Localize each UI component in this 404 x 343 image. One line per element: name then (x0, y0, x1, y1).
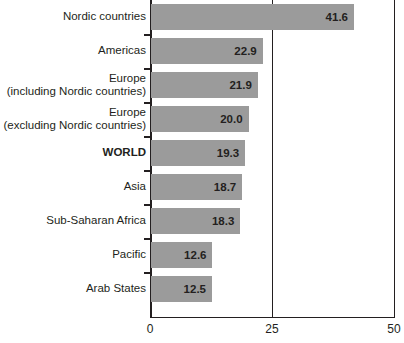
x-axis-tick-label-25: 25 (257, 322, 287, 336)
y-axis-tick (144, 238, 151, 240)
bar: 12.5 (151, 276, 212, 302)
bar: 19.3 (151, 140, 245, 166)
bar-value-label: 18.7 (214, 181, 236, 193)
bar-value-label: 12.5 (184, 283, 206, 295)
category-label-line2: (including Nordic countries) (7, 85, 146, 99)
category-label-line1: Americas (98, 44, 146, 56)
y-axis-tick (144, 272, 151, 274)
bar: 41.6 (151, 4, 354, 30)
bar-value-label: 19.3 (217, 147, 239, 159)
category-label-line1: WORLD (103, 146, 146, 158)
category-label: Pacific (112, 248, 146, 262)
bar-value-label: 41.6 (326, 11, 348, 23)
bar: 21.9 (151, 72, 258, 98)
category-label-line1: Pacific (112, 248, 146, 260)
bar: 20.0 (151, 106, 249, 132)
y-axis-tick (144, 170, 151, 172)
plot-area: 0255041.6Nordic countries22.9Americas21.… (0, 0, 404, 343)
bar: 18.3 (151, 208, 240, 234)
y-axis-tick (144, 68, 151, 70)
gridline-50 (394, 0, 395, 318)
category-label: Europe(excluding Nordic countries) (3, 106, 146, 133)
x-axis-tick-label-0: 0 (135, 322, 165, 336)
category-label: WORLD (103, 146, 146, 160)
bar-value-label: 21.9 (229, 79, 251, 91)
category-label: Arab States (86, 282, 146, 296)
bar-value-label: 22.9 (234, 45, 256, 57)
y-axis-tick (144, 102, 151, 104)
x-axis-tick-label-50: 50 (379, 322, 404, 336)
y-axis-tick (144, 204, 151, 206)
category-label-line1: Sub-Saharan Africa (46, 214, 146, 226)
category-label: Sub-Saharan Africa (46, 214, 146, 228)
bar-value-label: 20.0 (220, 113, 242, 125)
bar: 18.7 (151, 174, 242, 200)
y-axis-tick (144, 34, 151, 36)
x-axis-line (150, 317, 395, 318)
category-label-line2: (excluding Nordic countries) (3, 119, 146, 133)
bar: 12.6 (151, 242, 212, 268)
bar-value-label: 12.6 (184, 249, 206, 261)
category-label: Asia (124, 180, 146, 194)
category-label-line1: Europe (109, 72, 146, 84)
y-axis-tick (144, 136, 151, 138)
bar-chart: 0255041.6Nordic countries22.9Americas21.… (0, 0, 404, 343)
category-label: Americas (98, 44, 146, 58)
category-label: Europe(including Nordic countries) (7, 72, 146, 99)
gridline-25 (272, 0, 273, 318)
bar-value-label: 18.3 (212, 215, 234, 227)
bar: 22.9 (151, 38, 263, 64)
category-label: Nordic countries (63, 10, 146, 24)
category-label-line1: Europe (109, 106, 146, 118)
category-label-line1: Asia (124, 180, 146, 192)
category-label-line1: Arab States (86, 282, 146, 294)
category-label-line1: Nordic countries (63, 10, 146, 22)
